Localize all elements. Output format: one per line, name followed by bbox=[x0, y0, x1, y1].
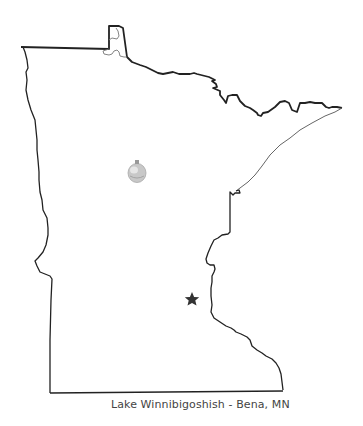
state-outline bbox=[21, 26, 342, 116]
minnesota-map bbox=[0, 0, 363, 426]
lake-superior-shoreline bbox=[236, 108, 342, 191]
location-ornament-icon bbox=[128, 160, 146, 183]
east-border bbox=[206, 190, 283, 390]
capital-star-icon bbox=[185, 292, 199, 306]
south-border bbox=[50, 391, 283, 393]
map-caption: Lake Winnibigoshish - Bena, MN bbox=[111, 398, 290, 411]
west-border bbox=[23, 47, 52, 393]
